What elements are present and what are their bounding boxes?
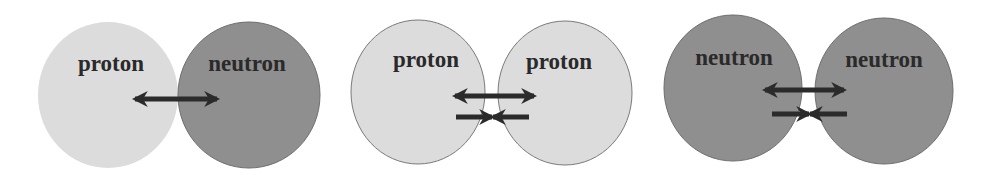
proton-label-left: proton xyxy=(393,47,459,72)
neutron-label-left: neutron xyxy=(695,45,773,70)
nucleon-interaction-diagram: proton neutron proton proton neutron neu… xyxy=(0,0,993,175)
proton-label-right: proton xyxy=(526,49,592,74)
panel-neutron-neutron: neutron neutron xyxy=(664,15,953,164)
neutron-circle xyxy=(178,22,320,168)
proton-label: proton xyxy=(78,51,144,76)
panel-proton-neutron: proton neutron xyxy=(38,22,320,168)
neutron-label-right: neutron xyxy=(845,47,923,72)
panel-proton-proton: proton proton xyxy=(351,20,632,165)
proton-circle xyxy=(38,22,178,168)
proton-circle-right xyxy=(498,21,632,165)
proton-circle-left xyxy=(351,20,485,164)
neutron-label: neutron xyxy=(208,51,286,76)
